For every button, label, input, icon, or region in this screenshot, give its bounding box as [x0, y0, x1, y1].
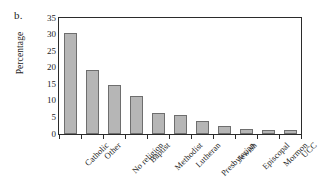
- x-axis-tick-mark: [279, 135, 280, 139]
- x-axis-tick-label: Baptist: [147, 140, 172, 165]
- bar: [284, 130, 297, 134]
- x-axis-tick-mark: [257, 135, 258, 139]
- bar: [240, 129, 253, 134]
- x-axis-tick-mark: [59, 135, 60, 139]
- bar: [108, 85, 121, 134]
- y-axis-title: Percentage: [15, 14, 25, 92]
- y-axis-tick-label: 0: [34, 130, 56, 139]
- x-axis-tick-mark: [213, 135, 214, 139]
- y-axis-tick-label: 20: [34, 63, 56, 72]
- x-axis-tick-mark: [169, 135, 170, 139]
- y-axis-tick-label: 5: [34, 113, 56, 122]
- bar: [196, 121, 209, 134]
- bar: [64, 33, 77, 134]
- x-axis-tick-mark: [235, 135, 236, 139]
- x-axis-tick-mark: [81, 135, 82, 139]
- y-axis-tick-label: 25: [34, 47, 56, 56]
- y-axis-tick-label: 10: [34, 96, 56, 105]
- bar: [262, 130, 275, 134]
- bar: [130, 96, 143, 134]
- bar: [152, 113, 165, 134]
- x-axis-tick-label: Jewish: [235, 140, 259, 164]
- bar: [218, 126, 231, 134]
- bar-chart-figure: b. Percentage 05101520253035 CatholicOth…: [0, 0, 319, 196]
- y-axis-tick-label: 35: [34, 14, 56, 23]
- x-axis-tick-mark: [191, 135, 192, 139]
- y-axis-tick-label: 15: [34, 80, 56, 89]
- x-axis-tick-mark: [147, 135, 148, 139]
- bar: [86, 70, 99, 134]
- x-axis-tick-mark: [301, 135, 302, 139]
- x-axis-tick-mark: [125, 135, 126, 139]
- bar: [174, 115, 187, 134]
- y-axis-tick-label: 30: [34, 30, 56, 39]
- bars-container: [59, 18, 301, 134]
